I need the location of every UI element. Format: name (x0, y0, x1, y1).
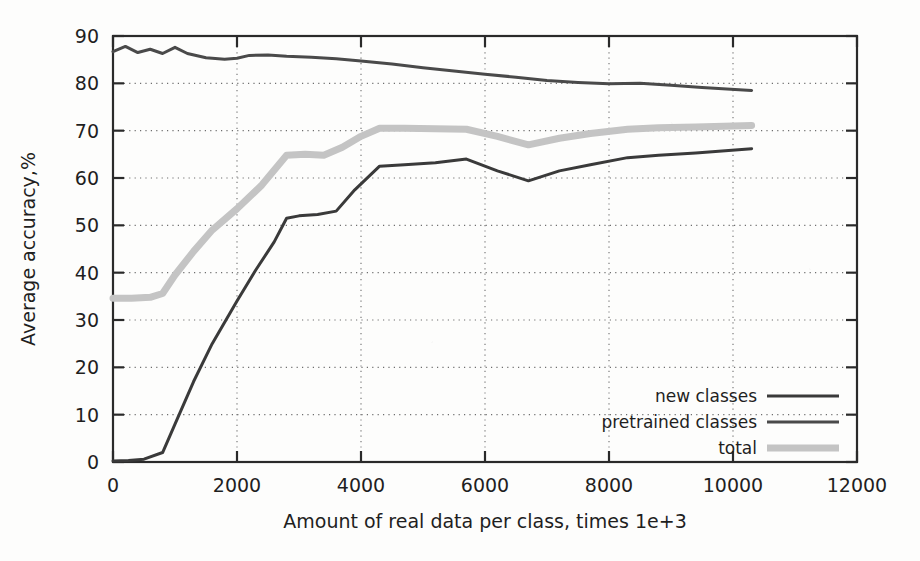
x-tick-label: 10000 (703, 474, 763, 496)
y-axis-title: Average accuracy,% (17, 152, 39, 346)
x-tick-label: 6000 (461, 474, 509, 496)
y-tick-label: 0 (87, 451, 99, 473)
legend-label-new-classes: new classes (655, 386, 757, 406)
x-tick-label: 12000 (827, 474, 887, 496)
x-tick-label: 8000 (585, 474, 633, 496)
y-tick-label: 10 (75, 404, 99, 426)
legend-label-total: total (718, 438, 757, 458)
y-tick-label: 50 (75, 214, 99, 236)
x-tick-label: 2000 (213, 474, 261, 496)
legend-label-pretrained-classes: pretrained classes (601, 412, 757, 432)
line-chart: 0102030405060708090020004000600080001000… (0, 0, 920, 561)
y-tick-label: 20 (75, 356, 99, 378)
y-tick-label: 80 (75, 72, 99, 94)
y-tick-label: 90 (75, 25, 99, 47)
chart-legend: new classespretrained classestotal (601, 386, 839, 458)
y-tick-label: 30 (75, 309, 99, 331)
chart-figure: 0102030405060708090020004000600080001000… (0, 0, 920, 561)
axis-tick-labels: 0102030405060708090020004000600080001000… (75, 25, 887, 496)
y-tick-label: 70 (75, 120, 99, 142)
x-tick-label: 0 (107, 474, 119, 496)
x-tick-label: 4000 (337, 474, 385, 496)
x-axis-title: Amount of real data per class, times 1e+… (283, 510, 686, 532)
y-tick-label: 60 (75, 167, 99, 189)
y-tick-label: 40 (75, 262, 99, 284)
